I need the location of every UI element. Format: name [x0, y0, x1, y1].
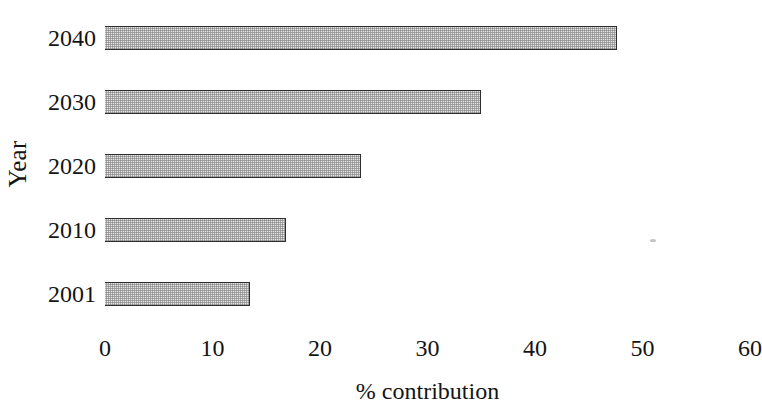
bar-chart-figure: Year 20012010202020302040 0102030405060 …	[0, 0, 762, 416]
y-tick-label-2010: 2010	[18, 218, 96, 242]
bar-2030	[105, 90, 481, 114]
plot-area	[105, 6, 750, 326]
bar-2040	[105, 26, 617, 50]
x-tick-label-60: 60	[720, 333, 762, 363]
bar-2010	[105, 218, 286, 242]
x-axis-title: % contribution	[105, 378, 750, 405]
bar-2001	[105, 282, 250, 306]
x-tick-label-0: 0	[75, 333, 135, 363]
x-axis-tick-labels: 0102030405060	[0, 333, 762, 367]
x-tick-label-40: 40	[505, 333, 565, 363]
x-tick-label-20: 20	[290, 333, 350, 363]
y-tick-label-2030: 2030	[18, 90, 96, 114]
y-tick-label-2040: 2040	[18, 26, 96, 50]
x-tick-label-30: 30	[398, 333, 458, 363]
scan-artifact-speck	[650, 239, 656, 242]
y-tick-label-2020: 2020	[18, 154, 96, 178]
x-tick-label-50: 50	[613, 333, 673, 363]
bar-2020	[105, 154, 361, 178]
x-tick-label-10: 10	[183, 333, 243, 363]
y-tick-label-2001: 2001	[18, 282, 96, 306]
